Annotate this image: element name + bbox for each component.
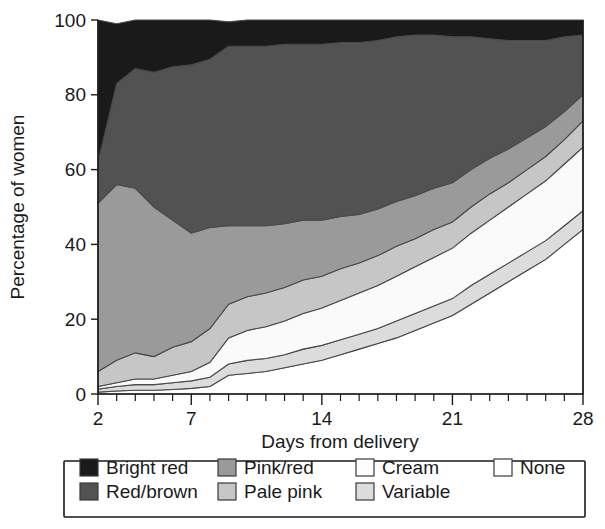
legend-swatch-cream [356,459,374,476]
y-axis-title: Percentage of women [7,115,28,300]
legend-swatch-bright-red [80,459,98,476]
legend-swatch-red-brown [80,483,98,500]
y-tick-label: 80 [65,84,86,105]
legend-label-none: None [520,457,565,478]
x-axis-tick-labels: 27142128 [93,408,594,429]
x-tick-label: 2 [93,408,104,429]
y-tick-label: 40 [65,234,86,255]
x-tick-label: 7 [186,408,197,429]
x-axis-title: Days from delivery [261,431,419,452]
x-axis-ticks [98,394,583,405]
legend-label-cream: Cream [382,457,439,478]
legend-swatch-pink-red [218,459,236,476]
x-tick-label: 14 [311,408,333,429]
y-tick-label: 20 [65,309,86,330]
x-tick-label: 21 [442,408,463,429]
chart-areas-group [98,20,583,394]
y-axis-ticks [91,20,98,394]
y-tick-label: 60 [65,159,86,180]
legend-label-bright-red: Bright red [106,457,188,478]
y-tick-label: 0 [75,384,86,405]
legend-label-red-brown: Red/brown [106,481,198,502]
legend-label-pale-pink: Pale pink [244,481,323,502]
legend-swatch-none [494,459,512,476]
y-axis-tick-labels: 020406080100 [54,10,86,405]
chart-legend: Bright redRed/brownPink/redPale pinkCrea… [64,457,585,517]
chart-canvas: 020406080100 27142128 Percentage of wome… [0,0,605,529]
legend-swatch-pale-pink [218,483,236,500]
legend-label-pink-red: Pink/red [244,457,314,478]
stacked-area-chart-figure: 020406080100 27142128 Percentage of wome… [0,0,605,529]
y-tick-label: 100 [54,10,86,31]
legend-swatch-variable [356,483,374,500]
x-tick-label: 28 [572,408,593,429]
legend-label-variable: Variable [382,481,450,502]
